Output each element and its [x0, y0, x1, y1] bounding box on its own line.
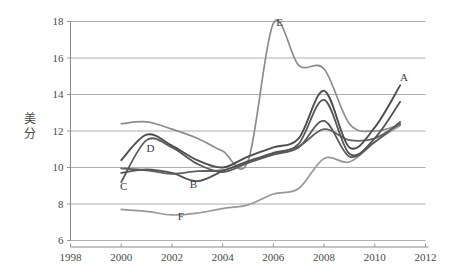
y-axis-title-char-0: 美 — [24, 112, 36, 126]
x-axis-group — [71, 244, 429, 248]
y-tick-label-6: 6 — [58, 234, 64, 246]
x-tick-label-2000: 2000 — [110, 251, 133, 263]
series-curves — [121, 20, 400, 215]
y-axis-title: 美分 — [24, 112, 36, 141]
y-tick-label-14: 14 — [53, 88, 65, 100]
series-label-A: A — [400, 71, 408, 83]
series-label-D: D — [146, 142, 154, 154]
x-tick-label-2006: 2006 — [262, 251, 285, 263]
series-label-E: E — [276, 16, 283, 28]
y-tick-label-16: 16 — [53, 52, 65, 64]
y-tick-label-10: 10 — [53, 161, 65, 173]
y-tick-label-8: 8 — [58, 198, 64, 210]
x-tick-label-2010: 2010 — [364, 251, 387, 263]
series-annotations: ABCDEF — [120, 16, 408, 222]
x-tick-labels: 19982000200220042006200820102012 — [60, 251, 437, 263]
x-tick-label-2008: 2008 — [313, 251, 336, 263]
series-label-C: C — [120, 180, 127, 192]
y-tick-label-12: 12 — [53, 125, 64, 137]
y-axis-title-char-1: 分 — [24, 127, 36, 141]
x-tick-label-2002: 2002 — [161, 251, 183, 263]
series-label-B: B — [190, 178, 197, 190]
line-chart: 681012141618 199820002002200420062008201… — [0, 0, 455, 274]
y-tick-label-18: 18 — [53, 15, 65, 27]
x-tick-label-2012: 2012 — [415, 251, 437, 263]
y-axis-group — [67, 21, 71, 241]
x-tick-label-1998: 1998 — [60, 251, 83, 263]
x-tick-label-2004: 2004 — [212, 251, 235, 263]
series-label-F: F — [178, 210, 184, 222]
y-tick-labels: 681012141618 — [53, 15, 65, 246]
chart-canvas: 681012141618 199820002002200420062008201… — [0, 0, 455, 274]
